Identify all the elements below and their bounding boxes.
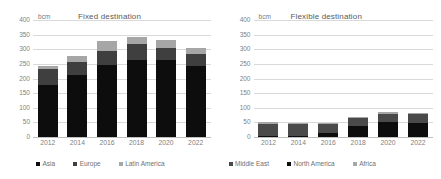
stacked-bar[interactable] (318, 123, 338, 137)
legend-swatch-icon (36, 162, 40, 166)
bar-column[interactable] (408, 20, 428, 137)
legend-label: Middle East (235, 160, 269, 167)
bar-segment-asia[interactable] (97, 65, 117, 137)
stacked-bar[interactable] (408, 113, 428, 137)
y-axis-tick-label: 350 (19, 32, 30, 39)
bar-segment-europe[interactable] (127, 44, 147, 60)
x-axis-baseline: 0 (254, 137, 434, 138)
bar-group-right (254, 20, 434, 137)
bar-segment-north-america[interactable] (288, 136, 308, 137)
bar-segment-middle-east[interactable] (258, 124, 278, 136)
stacked-bar[interactable] (67, 56, 87, 137)
bar-segment-north-america[interactable] (408, 123, 428, 137)
y-axis-tick-label: 300 (19, 46, 30, 53)
bar-segment-europe[interactable] (97, 51, 117, 66)
bar-segment-latin-america[interactable] (97, 41, 117, 51)
bar-segment-north-america[interactable] (348, 126, 368, 137)
bar-segment-middle-east[interactable] (348, 118, 368, 126)
legend-item-africa[interactable]: Africa (353, 160, 376, 167)
y-axis-tick-label: 0 (247, 134, 251, 141)
y-axis-tick-label: 300 (240, 46, 251, 53)
x-axis-tick-label: 2018 (348, 139, 368, 146)
y-axis-unit-label-left: bcm (38, 13, 51, 20)
legend-label: Europe (80, 160, 101, 167)
bar-segment-asia[interactable] (38, 85, 58, 137)
x-axis-tick-label: 2020 (378, 139, 398, 146)
bar-column[interactable] (348, 20, 368, 137)
legend-label: Africa (359, 160, 376, 167)
bar-segment-latin-america[interactable] (127, 37, 147, 44)
legend-label: Asia (43, 160, 56, 167)
legend-swatch-icon (119, 162, 123, 166)
bar-column[interactable] (97, 20, 117, 137)
legend-swatch-icon (287, 162, 291, 166)
panel-flexible-destination: bcm Flexible destination 400350300250200… (221, 0, 441, 179)
panel-fixed-destination: bcm Fixed destination 400350300250200150… (0, 0, 221, 179)
legend-label: North America (293, 160, 334, 167)
y-axis-tick-label: 400 (240, 17, 251, 24)
bar-column[interactable] (156, 20, 176, 137)
y-axis-tick-label: 150 (240, 90, 251, 97)
bar-segment-europe[interactable] (67, 62, 87, 75)
bar-segment-north-america[interactable] (378, 122, 398, 137)
stacked-bar[interactable] (127, 37, 147, 137)
legend-item-latin-america[interactable]: Latin America (119, 160, 165, 167)
bar-column[interactable] (127, 20, 147, 137)
stacked-bar[interactable] (288, 123, 308, 137)
legend-item-europe[interactable]: Europe (73, 160, 100, 167)
dual-bar-chart-figure: bcm Fixed destination 400350300250200150… (0, 0, 441, 179)
x-axis-tick-label: 2022 (186, 139, 206, 146)
y-axis-tick-label: 100 (240, 105, 251, 112)
bar-segment-north-america[interactable] (258, 136, 278, 137)
x-axis-tick-label: 2014 (67, 139, 87, 146)
stacked-bar[interactable] (258, 122, 278, 137)
stacked-bar[interactable] (378, 112, 398, 137)
stacked-bar[interactable] (156, 40, 176, 137)
y-axis-tick-label: 250 (19, 61, 30, 68)
bar-segment-north-america[interactable] (318, 133, 338, 137)
bar-segment-middle-east[interactable] (408, 114, 428, 123)
x-axis-left: 201220142016201820202022 (33, 139, 211, 146)
y-axis-tick-label: 0 (26, 134, 30, 141)
bar-column[interactable] (186, 20, 206, 137)
bar-segment-latin-america[interactable] (156, 40, 176, 47)
y-axis-unit-label-right: bcm (259, 13, 272, 20)
stacked-bar[interactable] (38, 66, 58, 137)
legend-left: AsiaEuropeLatin America (36, 160, 183, 167)
bar-segment-middle-east[interactable] (318, 124, 338, 134)
bar-segment-europe[interactable] (186, 54, 206, 67)
stacked-bar[interactable] (97, 41, 117, 137)
bar-column[interactable] (258, 20, 278, 137)
bar-segment-asia[interactable] (127, 60, 147, 137)
x-axis-tick-label: 2022 (408, 139, 428, 146)
bar-column[interactable] (318, 20, 338, 137)
legend-label: Latin America (125, 160, 164, 167)
x-axis-tick-label: 2018 (127, 139, 147, 146)
legend-item-north-america[interactable]: North America (287, 160, 335, 167)
x-axis-baseline: 0 (33, 137, 211, 138)
legend-item-middle-east[interactable]: Middle East (229, 160, 269, 167)
legend-item-asia[interactable]: Asia (36, 160, 55, 167)
bar-segment-asia[interactable] (67, 75, 87, 137)
bar-column[interactable] (288, 20, 308, 137)
y-axis-tick-label: 100 (19, 105, 30, 112)
y-axis-tick-label: 200 (240, 76, 251, 83)
bar-segment-middle-east[interactable] (378, 114, 398, 123)
x-axis-tick-label: 2020 (156, 139, 176, 146)
bar-segment-asia[interactable] (156, 60, 176, 137)
plot-area-left: 400350300250200150100500 (33, 20, 211, 137)
bar-segment-middle-east[interactable] (288, 124, 308, 136)
y-axis-tick-label: 200 (19, 76, 30, 83)
bar-segment-europe[interactable] (156, 48, 176, 60)
bar-segment-europe[interactable] (38, 69, 58, 85)
legend-swatch-icon (229, 162, 233, 166)
bar-column[interactable] (67, 20, 87, 137)
bar-segment-asia[interactable] (186, 66, 206, 137)
stacked-bar[interactable] (348, 117, 368, 137)
bar-column[interactable] (378, 20, 398, 137)
bar-column[interactable] (38, 20, 58, 137)
y-axis-tick-label: 400 (19, 17, 30, 24)
stacked-bar[interactable] (186, 48, 206, 137)
y-axis-tick-label: 250 (240, 61, 251, 68)
x-axis-tick-label: 2016 (318, 139, 338, 146)
